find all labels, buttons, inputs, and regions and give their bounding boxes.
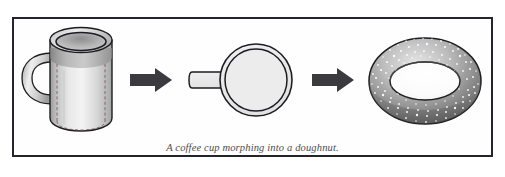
stage-coffee-cup bbox=[22, 28, 112, 132]
arrow-2 bbox=[312, 68, 354, 92]
mug-body bbox=[50, 40, 112, 131]
mug-rim bbox=[50, 28, 112, 53]
figure-illustration bbox=[0, 0, 505, 177]
stage-doughnut bbox=[369, 37, 481, 124]
figure-root: A coffee cup morphing into a doughnut. bbox=[0, 0, 505, 177]
mug-handle bbox=[22, 53, 52, 104]
disc-inner-ring bbox=[225, 49, 287, 111]
arrow-1 bbox=[130, 68, 172, 92]
stage-intermediate-disc bbox=[189, 44, 292, 116]
